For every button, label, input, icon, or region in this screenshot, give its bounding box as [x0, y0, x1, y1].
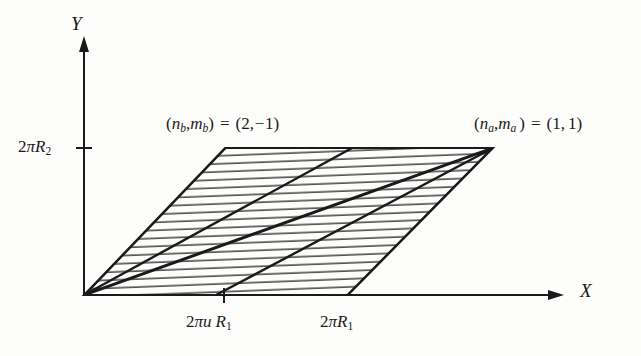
y-tick-sub: 2: [45, 145, 51, 158]
x2-sym: R: [337, 312, 347, 331]
x-tick-label-2piR1: 2πR1: [320, 313, 353, 333]
a-comma2: ,: [561, 114, 565, 133]
x1-var: u: [203, 312, 212, 331]
x-axis-label: X: [580, 281, 592, 300]
b-equals: =: [220, 114, 230, 133]
y-axis-label: Y: [71, 14, 82, 33]
b-minus: −: [254, 114, 265, 133]
diagram-svg: [0, 0, 641, 356]
x2-pi: π: [329, 312, 338, 331]
y-tick-coef: 2: [18, 137, 27, 156]
y-tick-label-2piR2: 2πR2: [18, 138, 51, 158]
x-axis-arrow-icon: [548, 290, 564, 300]
a-close: ): [519, 114, 525, 133]
a-m: m: [498, 114, 510, 133]
b-n: n: [172, 114, 181, 133]
a-equals: =: [531, 114, 541, 133]
x1-sub: 1: [226, 320, 232, 333]
y-axis-arrow-icon: [79, 36, 89, 52]
x2-sub: 1: [347, 320, 353, 333]
y-tick-pi: π: [27, 137, 36, 156]
b-val-n: 2: [241, 114, 250, 133]
x1-pi: π: [195, 312, 204, 331]
a-val-n: 1: [552, 114, 561, 133]
vector-label-a: (na,ma)=(1,1): [474, 115, 582, 135]
b-m: m: [190, 114, 202, 133]
a-close2: ): [576, 114, 582, 133]
vector-label-b: (nb,mb)=(2,−1): [166, 115, 279, 135]
y-axis: [76, 36, 92, 295]
a-n: n: [480, 114, 489, 133]
y-tick-sym: R: [35, 137, 45, 156]
b-close: ): [208, 114, 214, 133]
x2-coef: 2: [320, 312, 329, 331]
b-close2: ): [273, 114, 279, 133]
a-m-sub: a: [510, 122, 516, 135]
x1-coef: 2: [186, 312, 195, 331]
figure-canvas: Y X 2πR2 2πuR1 2πR1 (nb,mb)=(2,−1) (na,m…: [0, 0, 641, 356]
x1-sym: R: [216, 312, 226, 331]
x-tick-label-2piuR1: 2πuR1: [186, 313, 232, 333]
